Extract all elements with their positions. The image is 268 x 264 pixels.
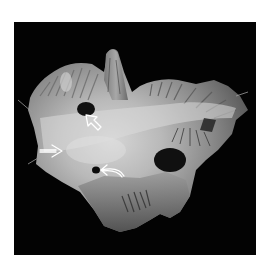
defect-upper xyxy=(77,102,95,116)
heart-specimen-image xyxy=(14,22,256,255)
defect-right xyxy=(154,148,186,172)
defect-lower xyxy=(92,167,100,174)
specimen-photo-frame xyxy=(14,22,256,255)
